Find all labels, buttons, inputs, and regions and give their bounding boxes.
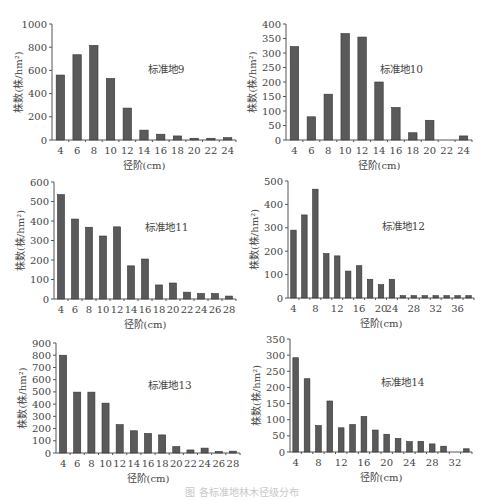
x-tick-label: 28	[223, 304, 236, 315]
x-tick-label: 18	[406, 145, 419, 156]
y-tick-label: 700	[32, 362, 51, 373]
y-tick-label: 200	[32, 423, 51, 434]
y-tick-label: 200	[266, 382, 285, 393]
bar	[291, 230, 296, 298]
y-tick-label: 100	[30, 274, 49, 285]
bar	[106, 79, 114, 140]
bar	[409, 133, 417, 140]
chart-title: 标准地9	[148, 63, 185, 75]
y-tick-label: 50	[268, 120, 281, 131]
chart-title: 标准地11	[145, 221, 188, 233]
y-tick-label: 100	[32, 435, 51, 446]
x-tick-label: 8	[312, 303, 318, 314]
y-axis-label: 株数(株/hm²)	[14, 210, 26, 271]
x-tick-label: 8	[91, 145, 97, 156]
x-tick-label: 4	[291, 145, 297, 156]
y-tick-label: 100	[262, 106, 281, 117]
bar	[304, 379, 310, 452]
bar	[100, 236, 107, 299]
x-tick-label: 14	[373, 145, 386, 156]
y-tick-label: 300	[262, 48, 281, 59]
bar	[114, 227, 121, 299]
bar	[392, 108, 400, 140]
y-axis-label: 株数(株/hm²)	[248, 209, 260, 270]
chart-title: 标准地12	[382, 220, 425, 232]
bar	[187, 450, 194, 453]
y-tick-label: 300	[264, 222, 283, 233]
bar	[422, 296, 427, 298]
y-tick-label: 600	[32, 374, 51, 385]
x-tick-label: 28	[407, 303, 420, 314]
y-tick-label: 400	[262, 19, 281, 30]
x-tick-label: 36	[451, 303, 464, 314]
y-tick-label: 500	[32, 386, 51, 397]
y-tick-label: 300	[266, 350, 285, 361]
bar	[116, 425, 123, 453]
x-tick-label: 14	[127, 458, 140, 469]
bar	[215, 452, 222, 453]
x-tick-label: 22	[181, 304, 194, 315]
x-tick-label: 14	[125, 304, 138, 315]
x-axis-label: 径阶(cm)	[360, 471, 403, 483]
bar	[130, 431, 137, 453]
bar	[455, 296, 460, 298]
x-tick-label: 24	[198, 458, 211, 469]
bar	[361, 416, 367, 452]
bar	[73, 55, 81, 140]
x-tick-label: 4	[290, 303, 296, 314]
y-tick-label: 200	[30, 255, 49, 266]
y-tick-label: 250	[262, 62, 281, 73]
x-tick-label: 20	[423, 145, 436, 156]
bar	[378, 285, 383, 298]
x-tick-label: 8	[88, 458, 94, 469]
chart-plot-10: 0501001502002503003504004681012141618202…	[242, 0, 484, 170]
x-tick-label: 20	[170, 458, 183, 469]
x-tick-label: 16	[142, 458, 155, 469]
x-tick-label: 16	[390, 145, 403, 156]
y-tick-label: 300	[32, 411, 51, 422]
y-tick-label: 900	[32, 338, 51, 349]
bar	[88, 392, 95, 453]
x-tick-label: 10	[104, 145, 117, 156]
x-tick-label: 12	[111, 304, 124, 315]
y-tick-label: 800	[32, 350, 51, 361]
y-tick-label: 0	[45, 448, 51, 459]
x-tick-label: 12	[356, 145, 369, 156]
x-tick-label: 6	[74, 145, 80, 156]
y-tick-label: 400	[32, 399, 51, 410]
y-tick-label: 150	[266, 398, 285, 409]
bar	[389, 279, 394, 298]
bar	[459, 136, 467, 140]
bar	[290, 47, 298, 140]
y-tick-label: 500	[30, 196, 49, 207]
bar	[358, 37, 366, 140]
bar	[60, 355, 67, 453]
bar	[223, 138, 231, 140]
chart-plot-11: 0100200300400500600468101214161820222426…	[0, 170, 242, 335]
figure-caption: 图 各标准地林木径级分布	[0, 484, 484, 499]
y-tick-label: 400	[28, 88, 47, 99]
x-tick-label: 22	[440, 145, 453, 156]
bar	[74, 392, 81, 453]
x-tick-label: 6	[72, 304, 78, 315]
y-tick-label: 50	[272, 430, 285, 441]
x-tick-label: 26	[209, 304, 222, 315]
y-tick-label: 0	[43, 294, 49, 305]
y-tick-label: 250	[266, 366, 285, 377]
bar	[128, 266, 135, 299]
x-tick-label: 18	[171, 145, 184, 156]
bar	[140, 130, 148, 140]
y-tick-label: 200	[264, 246, 283, 257]
bar	[207, 138, 215, 140]
bar	[441, 446, 447, 452]
x-tick-label: 12	[121, 145, 134, 156]
y-tick-label: 400	[30, 216, 49, 227]
bar	[144, 433, 151, 453]
x-tick-label: 10	[99, 458, 112, 469]
bar	[411, 296, 416, 298]
bar	[324, 254, 329, 298]
x-tick-label: 32	[429, 303, 442, 314]
bar	[367, 279, 372, 298]
x-tick-label: 20	[380, 457, 393, 468]
x-tick-label: 22	[184, 458, 197, 469]
